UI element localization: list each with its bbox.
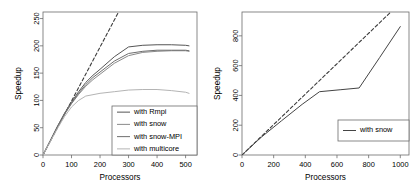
y-tick-label: 400: [231, 89, 240, 101]
y-tick-label: 150: [32, 67, 41, 79]
legend-label: with multicore: [133, 144, 179, 153]
figure-two-speedup-plots: 0100200300400500050100150200250Processor…: [0, 0, 419, 194]
legend-label: with Rmpi: [133, 107, 167, 116]
x-tick-label: 600: [331, 160, 343, 169]
y-tick-label: 250: [32, 12, 41, 24]
y-tick-label: 800: [231, 30, 240, 42]
x-tick-label: 500: [179, 160, 191, 169]
y-tick-label: 0: [32, 153, 41, 157]
x-tick-label: 200: [94, 160, 106, 169]
legend-label: with snow: [359, 125, 393, 134]
x-tick-label: 300: [122, 160, 134, 169]
x-tick-label: 800: [362, 160, 374, 169]
y-axis-title: Speedup: [14, 67, 23, 100]
x-tick-label: 400: [299, 160, 311, 169]
y-tick-label: 50: [32, 124, 41, 132]
x-tick-label: 200: [267, 160, 279, 169]
x-axis-title: Processors: [305, 173, 346, 182]
y-tick-label: 200: [231, 119, 240, 131]
x-tick-label: 0: [41, 160, 45, 169]
x-tick-label: 0: [240, 160, 244, 169]
x-tick-label: 400: [151, 160, 163, 169]
x-axis-title: Processors: [100, 173, 141, 182]
y-tick-label: 100: [32, 94, 41, 106]
x-tick-label: 100: [65, 160, 77, 169]
y-tick-label: 0: [231, 153, 240, 157]
y-tick-label: 200: [32, 40, 41, 52]
x-tick-label: 1000: [392, 160, 408, 169]
right-speedup-chart-svg: 020040060080010000200400600800Processors…: [210, 0, 419, 194]
left-speedup-chart-svg: 0100200300400500050100150200250Processor…: [0, 0, 210, 194]
y-axis-title: Speedup: [213, 67, 222, 100]
left-speedup-chart-panel: 0100200300400500050100150200250Processor…: [0, 0, 210, 194]
legend-label: with snow-MPI: [133, 132, 182, 141]
y-tick-label: 600: [231, 59, 240, 71]
right-speedup-chart-panel: 020040060080010000200400600800Processors…: [210, 0, 419, 194]
legend-label: with snow: [133, 119, 167, 128]
